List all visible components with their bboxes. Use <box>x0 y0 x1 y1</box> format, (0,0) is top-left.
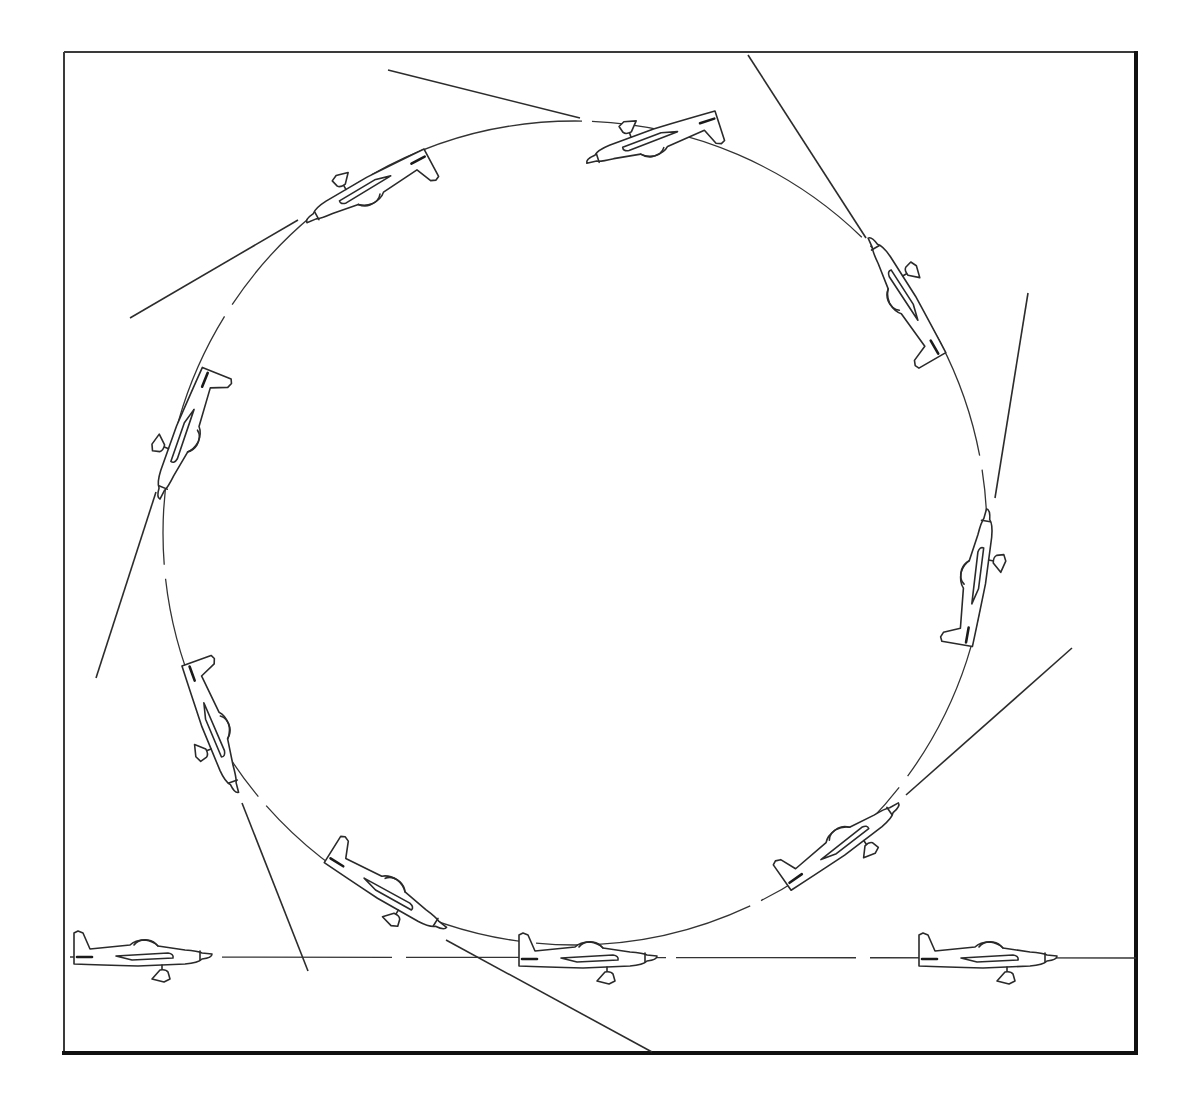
airplane-icon <box>134 361 233 508</box>
airplane-icon <box>294 133 440 243</box>
loop-diagram <box>0 0 1198 1110</box>
tangent-line <box>130 220 298 318</box>
tangent-line <box>995 293 1028 498</box>
airplane-icon <box>848 224 961 369</box>
tangent-line <box>388 70 580 118</box>
airplane-icon <box>578 94 725 185</box>
tangent-lines <box>96 55 1072 1052</box>
tangent-line <box>242 803 308 971</box>
airplane-icon <box>74 931 212 982</box>
airplane-icon <box>940 505 1014 650</box>
tangent-line <box>906 648 1072 795</box>
tangent-line <box>748 55 866 238</box>
airplane-positions <box>74 94 1057 984</box>
airplane-icon <box>772 784 914 905</box>
airplane-icon <box>919 933 1057 984</box>
tangent-line <box>96 492 156 678</box>
airplane-icon <box>315 835 459 951</box>
